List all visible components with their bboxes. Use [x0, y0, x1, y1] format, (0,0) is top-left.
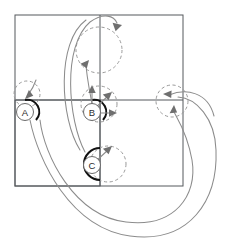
arrow-top-left-in-icon	[80, 60, 89, 69]
node-group: A B C	[17, 104, 101, 174]
node-b-label: B	[89, 107, 95, 118]
dashed-circle-group	[14, 27, 188, 182]
diagram-canvas: A B C	[0, 0, 238, 251]
arrow-a-down-icon	[25, 90, 33, 99]
node-a[interactable]: A	[17, 104, 34, 121]
node-c-label: C	[89, 160, 96, 171]
curve-c-to-top-right	[71, 16, 117, 152]
arrow-top-right-in-icon	[113, 23, 122, 32]
arrow-right-in-up-icon	[170, 105, 178, 113]
ghost-circle-top-icon	[76, 27, 122, 73]
state-transition-diagram: A B C	[0, 0, 238, 251]
node-c[interactable]: C	[84, 157, 101, 174]
curve-c-to-top-right-inner	[64, 20, 86, 150]
curve-a-long-bottom	[30, 97, 216, 237]
flow-curve-group	[30, 16, 216, 237]
curve-inner-long-bottom	[40, 112, 193, 223]
node-b[interactable]: B	[84, 104, 101, 121]
arrow-group	[25, 23, 177, 163]
node-a-label: A	[22, 107, 29, 118]
arrow-right-in-left-icon	[163, 91, 172, 99]
